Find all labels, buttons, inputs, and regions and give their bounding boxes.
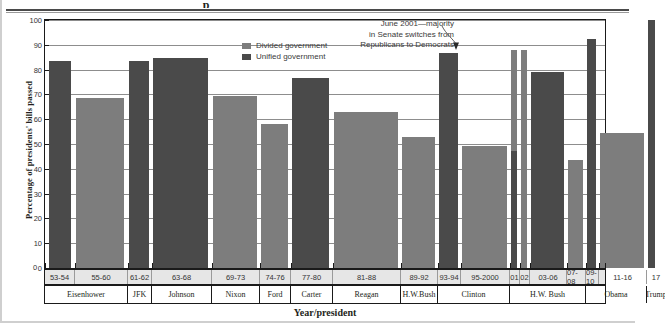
year-label-cell: 01 (510, 270, 520, 284)
y-tick-label: 100 (29, 16, 42, 25)
year-label-cell: 93-94 (438, 270, 461, 284)
bar (153, 58, 208, 268)
x-axis-title: Year/president (44, 307, 606, 318)
x-tickmark (530, 263, 531, 268)
president-label-cell: H.W. Bush (510, 286, 586, 303)
year-label-band: 53-5455-6061-6263-6869-7374-7677-8081-88… (44, 269, 606, 285)
year-label-cell: 81-88 (333, 270, 401, 284)
legend-swatch-icon (242, 43, 251, 49)
x-tickmark (401, 263, 402, 268)
x-tickmark (461, 263, 462, 268)
y-axis-zero-label: 0 (33, 263, 37, 272)
y-tick-label: 0 (38, 264, 42, 273)
y-tick-label: 70 (34, 90, 42, 99)
bar (129, 61, 149, 268)
bar (587, 39, 596, 268)
year-label-cell: 53-54 (45, 270, 75, 284)
x-tickmark (212, 263, 213, 268)
header-rule-secondary (6, 12, 629, 13)
president-label-cell: Obama (586, 286, 647, 303)
president-label-cell: Reagan (333, 286, 401, 303)
annotation-line-2: in Senate switches from (318, 30, 454, 41)
y-tick-label: 40 (34, 164, 42, 173)
bar (568, 160, 583, 268)
y-tick-label: 80 (34, 65, 42, 74)
legend-swatch-icon (242, 54, 251, 60)
x-tickmark (438, 263, 439, 268)
president-label-cell: Carter (291, 286, 333, 303)
bar (49, 61, 71, 268)
bar (76, 98, 124, 268)
bar-segment-divided (511, 50, 517, 152)
bar (521, 50, 527, 268)
year-label-cell: 63-68 (152, 270, 212, 284)
president-label-cell: H.W.Bush (401, 286, 438, 303)
bar (439, 53, 458, 268)
x-tickmark (75, 263, 76, 268)
x-tickmark (567, 263, 568, 268)
year-label-cell: 69-73 (212, 270, 260, 284)
x-tickmark (599, 263, 600, 268)
year-label-cell: 89-92 (401, 270, 438, 284)
bar (648, 20, 655, 268)
x-tickmark (45, 263, 46, 268)
y-tick-label: 90 (34, 40, 42, 49)
page-edge-left (0, 0, 2, 323)
year-label-cell: 77-80 (291, 270, 333, 284)
x-tickmark (260, 263, 261, 268)
annotation-line-3: Republicans to Democrats (318, 40, 454, 51)
y-tick-label: 50 (34, 140, 42, 149)
x-tickmark (333, 263, 334, 268)
year-label-cell: 03-06 (530, 270, 567, 284)
president-label-cell: Nixon (212, 286, 260, 303)
annotation-text: June 2001—majority in Senate switches fr… (318, 19, 454, 51)
bar (600, 133, 644, 268)
president-label-cell: Ford (260, 286, 291, 303)
president-label-cell: Trump (647, 286, 665, 303)
bar (462, 146, 507, 268)
president-label-cell: JFK (128, 286, 152, 303)
x-tickmark (128, 263, 129, 268)
bar (511, 50, 517, 268)
bar (261, 124, 288, 268)
partial-title-fragment: p (196, 0, 216, 8)
bar (213, 96, 257, 268)
y-tick-label: 20 (34, 214, 42, 223)
legend-item-unified: Unified government (242, 51, 327, 62)
plot-area: 0102030405060708090100 Divided governmen… (44, 19, 606, 269)
x-tickmark (510, 263, 511, 268)
president-label-band: EisenhowerJFKJohnsonNixonFordCarterReaga… (44, 285, 606, 304)
legend-item-divided: Divided government (242, 40, 327, 51)
year-label-cell: 61-62 (128, 270, 152, 284)
y-tick-label: 30 (34, 189, 42, 198)
bar (292, 78, 329, 268)
year-label-cell: 07-08 (567, 270, 586, 284)
bar (402, 137, 435, 268)
president-label-cell: Clinton (438, 286, 510, 303)
x-tickmark (605, 263, 606, 268)
x-tickmark (520, 263, 521, 268)
annotation-line-1: June 2001—majority (318, 19, 454, 30)
year-label-cell: 11-16 (599, 270, 647, 284)
x-tickmark (586, 263, 587, 268)
year-label-cell: 55-60 (75, 270, 128, 284)
y-tick-label: 10 (34, 239, 42, 248)
y-tick-label: 60 (34, 115, 42, 124)
year-label-cell: 95-2000 (461, 270, 510, 284)
x-tickmark (291, 263, 292, 268)
legend: Divided government Unified government (242, 40, 327, 62)
year-label-cell: 74-76 (260, 270, 291, 284)
y-axis-title: Percentage of presidents' bills passed (24, 25, 34, 275)
year-label-cell: 17 (647, 270, 665, 284)
bar (531, 72, 564, 268)
year-label-cell: 09-10 (586, 270, 599, 284)
bar (334, 112, 398, 268)
bar-segment-unified (511, 151, 517, 268)
president-label-cell: Johnson (152, 286, 212, 303)
president-label-cell: Eisenhower (45, 286, 128, 303)
x-tickmark (152, 263, 153, 268)
legend-label-unified: Unified government (256, 52, 325, 61)
legend-label-divided: Divided government (256, 41, 327, 50)
year-label-cell: 02 (520, 270, 530, 284)
